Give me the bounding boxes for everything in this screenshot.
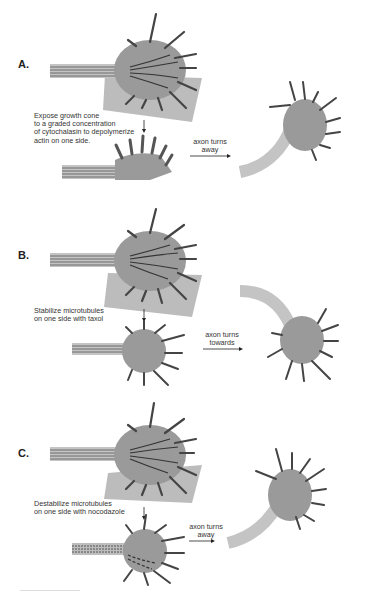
- growth-cone: [114, 425, 186, 485]
- experiment-caption: Expose growth cone to a graded concentra…: [34, 112, 134, 145]
- result-growth-cone: [283, 99, 327, 151]
- treated-growth-cone: [123, 529, 167, 573]
- panel-c: C. Destabilize microtubules on one side …: [0, 395, 367, 590]
- right-arrow-icon: [227, 154, 231, 158]
- experiment-caption: Destabilize microtubules on one side wit…: [34, 500, 125, 516]
- panel-c-illustration: [0, 395, 367, 590]
- growth-cone: [114, 231, 186, 291]
- down-arrow-icon: [142, 129, 146, 133]
- result-growth-cone: [268, 469, 312, 521]
- result-label: axon turns towards: [192, 331, 252, 347]
- right-arrow-icon: [211, 539, 215, 543]
- panel-label: C.: [18, 447, 29, 459]
- panel-label: A.: [18, 58, 29, 70]
- treated-growth-cone: [122, 329, 166, 373]
- turned-axon: [240, 291, 290, 325]
- result-label: axon turns away: [180, 138, 240, 154]
- panel-b: B. Stabilize microtubules on one side wi…: [0, 195, 367, 395]
- panel-label: B.: [18, 249, 29, 261]
- turned-axon: [240, 130, 290, 172]
- collapsed-growth-cone: [115, 153, 172, 180]
- experiment-caption: Stabilize microtubules on one side with …: [34, 307, 104, 323]
- divider: [20, 590, 80, 591]
- panel-a: A. Expose growth cone to a graded concen…: [0, 0, 367, 195]
- panel-b-illustration: [0, 195, 367, 395]
- panel-a-illustration: [0, 0, 367, 195]
- growth-cone: [114, 40, 186, 100]
- result-label: axon turns away: [176, 523, 236, 539]
- right-arrow-icon: [239, 347, 243, 351]
